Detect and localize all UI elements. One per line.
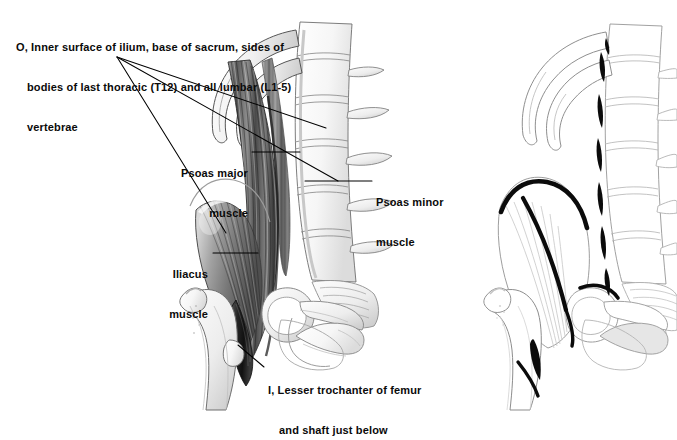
- origin-label-line3: vertebrae: [16, 121, 291, 134]
- insertion-label-line2: and shaft just below: [268, 424, 422, 437]
- vertebral-bodies: [295, 22, 356, 282]
- iliacus-label-line2: muscle: [112, 308, 208, 321]
- insertion-label-line1: I, Lesser trochanter of femur: [268, 384, 422, 397]
- origin-label-line2: bodies of last thoracic (T12) and all lu…: [16, 81, 291, 94]
- psoas-minor-label-line1: Psoas minor: [376, 196, 444, 209]
- vertebral-bodies-right: [605, 24, 666, 284]
- psoas-minor-label-line2: muscle: [376, 236, 444, 249]
- psoas-minor-label: Psoas minor muscle: [376, 169, 444, 263]
- origin-label: O, Inner surface of ilium, base of sacru…: [16, 14, 291, 148]
- iliacus-label-line1: Iliacus: [112, 268, 208, 281]
- origin-label-line1: O, Inner surface of ilium, base of sacru…: [16, 41, 291, 54]
- psoas-major-label: Psoas major muscle: [110, 140, 248, 234]
- iliacus-label: Iliacus muscle: [112, 241, 208, 335]
- insertion-label: I, Lesser trochanter of femur and shaft …: [268, 357, 422, 440]
- psoas-major-label-line1: Psoas major: [110, 167, 248, 180]
- psoas-major-label-line2: muscle: [110, 207, 248, 220]
